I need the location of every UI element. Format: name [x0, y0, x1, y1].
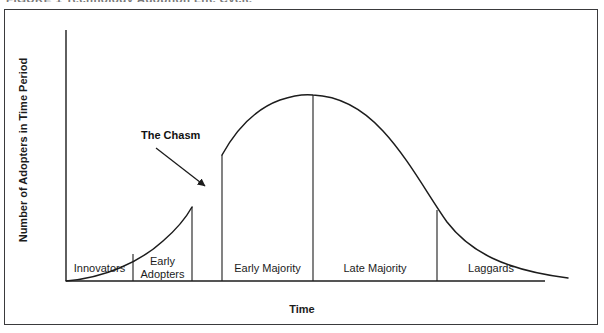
y-axis-label-text: Number of Adopters in Time Period	[17, 50, 29, 250]
chasm-annotation-label: The Chasm	[141, 129, 200, 141]
segment-label-early-majority: Early Majority	[222, 262, 313, 275]
segment-label-innovators: Innovators	[66, 262, 133, 275]
segment-label-early-adopters: Early Adopters	[133, 255, 192, 281]
segment-label-late-majority: Late Majority	[313, 262, 437, 275]
segment-label-laggards: Laggards	[437, 262, 545, 275]
mainstream-market-curve	[222, 95, 568, 278]
chasm-arrow-icon	[156, 148, 205, 186]
figure-stage: FIGURE 1 Technology Adoption Life Cycle …	[0, 0, 604, 333]
x-axis-label: Time	[0, 303, 604, 315]
y-axis-label: Number of Adopters in Time Period	[17, 0, 33, 50]
adoption-curve-chart	[0, 0, 604, 333]
